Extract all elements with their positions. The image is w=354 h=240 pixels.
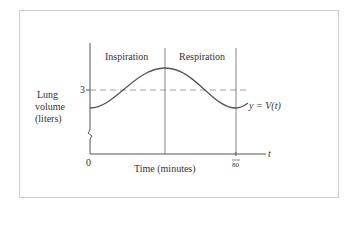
x-tick-label-0: 0 [86,157,91,168]
volume-curve [90,68,248,108]
region-label-inspiration: Inspiration [105,51,148,62]
y-label-line2: volume [35,101,65,112]
y-label-line1: Lung [37,89,58,100]
region-label-respiration: Respiration [179,51,225,62]
axis-break-icon [88,130,92,139]
x-axis-label: Time (minutes) [134,163,196,174]
y-label-line3: (liters) [35,113,62,124]
x-tick-frac-num: 1 [234,150,238,158]
x-axis-symbol: t [268,148,271,159]
x-tick-frac-den: 80 [232,161,239,169]
curve-label: y = V(t) [249,100,281,111]
y-tick-label-3: 3 [80,84,85,95]
